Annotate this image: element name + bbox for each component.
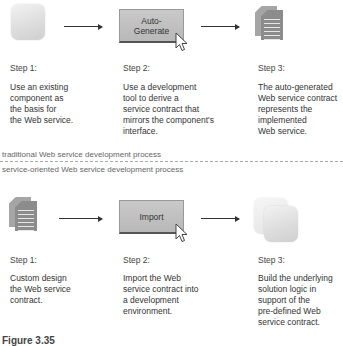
component-icon	[11, 4, 45, 40]
figure-caption: Figure 3.35	[2, 335, 55, 346]
traditional-step-3-label: Step 3:	[258, 63, 285, 73]
cursor-icon	[175, 32, 189, 52]
traditional-step-1-label: Step 1:	[10, 63, 37, 73]
traditional-step-2-description: Use a development tool to derive a servi…	[123, 82, 214, 137]
arrow-icon	[59, 218, 102, 219]
traditional-step-2-label: Step 2:	[123, 63, 150, 73]
traditional-step-3-description: The auto-generated Web service contract …	[258, 82, 337, 137]
arrow-icon	[64, 26, 102, 27]
service-oriented-step-1-description: Custom design the Web service contract.	[10, 273, 71, 306]
service-oriented-process-label: service-oriented Web service development…	[2, 165, 183, 174]
traditional-process-label: traditional Web service development proc…	[2, 150, 161, 159]
auto-generate-label: Auto- Generate	[134, 16, 169, 36]
service-oriented-step-3-description: Build the underlying solution logic in s…	[258, 273, 333, 328]
cursor-icon	[175, 223, 189, 243]
stacked-components-icon	[254, 198, 300, 244]
document-icon	[255, 6, 287, 46]
service-oriented-step-2-label: Step 2:	[123, 255, 150, 265]
service-oriented-step-2-description: Import the Web service contract into a d…	[123, 273, 199, 317]
import-label: Import	[139, 212, 163, 222]
service-oriented-step-3-label: Step 3:	[258, 255, 285, 265]
arrow-icon	[201, 26, 239, 27]
service-oriented-step-1-label: Step 1:	[10, 255, 37, 265]
traditional-step-1-description: Use an existing component as the basis f…	[10, 82, 73, 126]
document-icon	[9, 197, 41, 237]
arrow-icon	[201, 218, 239, 219]
process-divider	[0, 161, 343, 162]
